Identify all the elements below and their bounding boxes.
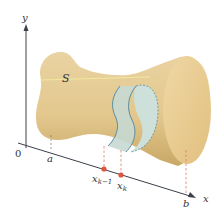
x-k-label: xk	[117, 180, 127, 193]
end-cap	[163, 56, 211, 164]
y-axis: y	[21, 12, 29, 148]
solid-label: S	[62, 72, 70, 85]
x-prev-point	[101, 166, 106, 171]
solid-slicing-diagram: y S x 0 a xk−1	[0, 0, 223, 220]
x-prev-marker: xk−1	[92, 146, 112, 186]
x-prev-label: xk−1	[92, 173, 112, 186]
b-label: b	[183, 198, 189, 209]
a-label: a	[47, 153, 53, 164]
x-axis-label: x	[203, 193, 209, 204]
y-axis-label: y	[21, 12, 28, 23]
x-k-point	[118, 172, 123, 177]
x-k-marker: xk	[117, 150, 127, 193]
origin-label: 0	[15, 148, 21, 159]
